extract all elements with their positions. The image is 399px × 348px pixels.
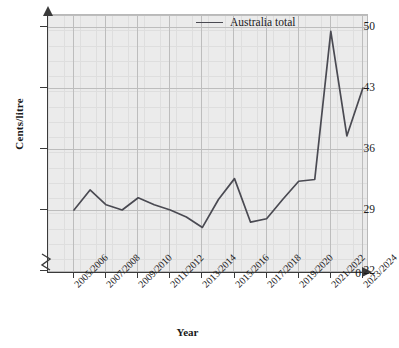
x-tick-mark-2023-2024 [362, 272, 363, 278]
legend-line-swatch [196, 22, 223, 23]
legend: Australia total [196, 16, 295, 28]
x-tick-mark-2017-2018 [266, 272, 267, 278]
x-tick-mark-2021-2022 [330, 272, 331, 278]
y-tick-label-50: 50 [333, 21, 375, 32]
series-australia-total [48, 15, 368, 272]
x-tick-mark-2005-2006 [73, 272, 74, 278]
plot-area [47, 14, 368, 272]
y-axis-line [47, 14, 48, 272]
y-tick-mark-22 [40, 270, 48, 271]
x-tick-mark-2019-2020 [298, 272, 299, 278]
y-tick-mark-43 [40, 87, 48, 88]
y-tick-label-43: 43 [333, 82, 375, 93]
x-axis-title: Year [0, 326, 375, 338]
x-tick-mark-2015-2016 [234, 272, 235, 278]
x-tick-mark-2009-2010 [137, 272, 138, 278]
y-tick-mark-29 [40, 209, 48, 210]
y-axis-title: Cents/litre [13, 79, 25, 169]
x-tick-mark-2007-2008 [105, 272, 106, 278]
y-tick-label-36: 36 [333, 143, 375, 154]
x-tick-mark-2013-2014 [201, 272, 202, 278]
y-tick-mark-50 [40, 26, 48, 27]
y-tick-label-29: 29 [333, 204, 375, 215]
y-axis-arrow-icon [43, 6, 53, 16]
x-tick-mark-2011-2012 [169, 272, 170, 278]
y-tick-mark-36 [40, 148, 48, 149]
legend-label-australia-total: Australia total [230, 16, 295, 28]
